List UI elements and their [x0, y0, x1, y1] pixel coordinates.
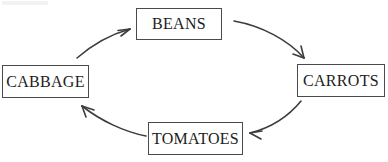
node-beans-label: BEANS	[152, 16, 206, 32]
node-carrots-label: CARROTS	[303, 73, 379, 89]
node-cabbage[interactable]: CABBAGE	[2, 65, 89, 98]
node-tomatoes[interactable]: TOMATOES	[148, 122, 243, 155]
node-tomatoes-label: TOMATOES	[152, 131, 239, 147]
edge-tomatoes-to-cabbage	[82, 106, 146, 136]
edge-beans-to-carrots	[234, 21, 304, 58]
node-cabbage-label: CABBAGE	[6, 74, 85, 90]
node-beans[interactable]: BEANS	[136, 8, 222, 40]
scan-artifact	[2, 1, 48, 5]
edge-cabbage-to-beans	[77, 29, 130, 58]
node-carrots[interactable]: CARROTS	[297, 64, 385, 97]
edge-carrots-to-tomatoes	[250, 101, 301, 139]
diagram-canvas: BEANS CARROTS TOMATOES CABBAGE	[0, 0, 388, 162]
